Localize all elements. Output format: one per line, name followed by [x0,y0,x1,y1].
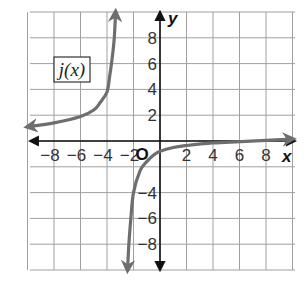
x-tick-label: 4 [208,146,217,165]
x-axis-label: x [281,147,293,166]
y-tick-label: 6 [148,55,157,74]
x-tick-label: 8 [261,146,270,165]
x-tick-label: 6 [235,146,244,165]
y-axis-label: y [167,9,179,28]
y-tick-label: −8 [138,235,157,254]
y-tick-label: −6 [138,209,157,228]
y-tick-label: 8 [148,29,157,48]
function-label: j(x) [56,59,85,81]
y-tick-label: 2 [148,106,157,125]
origin-label: O [135,145,148,164]
y-tick-label: −4 [138,184,157,203]
x-tick-label: −8 [40,146,59,165]
function-graph: −8−6−4−224688642−4−6−8 j(x) y x O [0,0,307,281]
function-label-box: j(x) [54,57,90,82]
y-tick-label: 4 [148,80,157,99]
x-tick-label: 2 [182,146,191,165]
x-tick-label: −4 [93,146,112,165]
x-tick-label: −6 [67,146,86,165]
